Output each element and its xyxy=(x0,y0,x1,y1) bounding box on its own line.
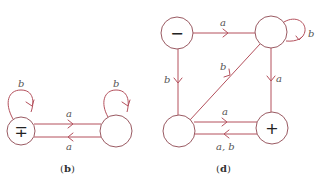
diagram-b: b b a a ∓ (b) xyxy=(7,78,132,174)
label-b1-loop: b xyxy=(113,78,119,89)
label-d1-d3: a xyxy=(276,73,282,84)
start-marker: − xyxy=(170,24,183,43)
automata-figure: b b a a ∓ (b) a b b a xyxy=(0,0,329,185)
label-d2-d3: a xyxy=(222,106,228,117)
state-d1 xyxy=(255,16,287,48)
arrowhead xyxy=(122,100,130,106)
caption-d: (d) xyxy=(216,163,231,174)
label-d0-d1: a xyxy=(220,17,226,28)
state-b1 xyxy=(100,115,132,147)
label-d3-d2: a, b xyxy=(216,141,235,152)
state-d2 xyxy=(163,115,195,147)
start-accept-marker: ∓ xyxy=(14,122,27,141)
diagram-d: a b b a b a a, b − + (d) xyxy=(161,16,314,174)
label-b0-loop: b xyxy=(18,78,24,89)
label-b0-b1: a xyxy=(66,108,72,119)
label-d2-d1: b xyxy=(220,61,226,72)
caption-b: (b) xyxy=(60,163,75,174)
label-d0-d2: b xyxy=(164,74,170,85)
label-b1-b0: a xyxy=(66,141,72,152)
arrowhead xyxy=(296,36,303,40)
label-d1-loop: b xyxy=(308,28,314,39)
accept-marker: + xyxy=(265,119,278,138)
